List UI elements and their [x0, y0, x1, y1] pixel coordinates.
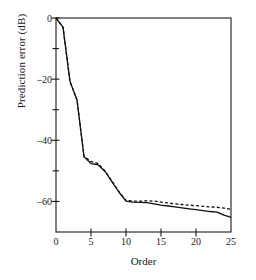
axis-ticks	[52, 18, 197, 237]
dashed-curve	[56, 18, 231, 209]
prediction-error-chart: Prediction error (dB) Order 0 –20 –40 –6…	[0, 0, 256, 280]
plot-frame	[56, 18, 231, 232]
solid-curve	[56, 18, 231, 217]
plot-area	[0, 0, 256, 280]
